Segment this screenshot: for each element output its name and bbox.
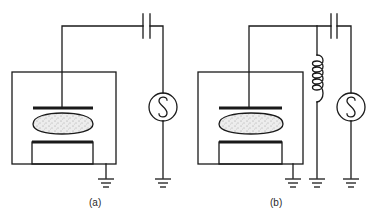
source-wire-top (150, 26, 163, 93)
circuit-figure (0, 0, 375, 219)
ground-icon (343, 179, 359, 187)
bottom-electrode (32, 142, 93, 164)
panel-b-caption: (b) (270, 197, 282, 208)
ground-icon (309, 179, 325, 187)
ground-icon (98, 179, 114, 187)
ground-icon (285, 179, 301, 187)
plasma-icon (219, 113, 283, 134)
rf-source-icon (337, 93, 365, 121)
inductor-icon (313, 55, 324, 102)
source-wire-top (337, 26, 351, 93)
capacitor-icon (331, 14, 337, 38)
capacitor-icon (143, 14, 150, 38)
bottom-electrode (219, 142, 282, 164)
feed-wire (62, 26, 143, 108)
panel-a (12, 14, 177, 187)
rf-source-icon (149, 93, 177, 121)
panel-b (198, 14, 365, 187)
panel-a-caption: (a) (89, 197, 101, 208)
plasma-icon (33, 113, 93, 134)
ground-icon (155, 179, 171, 187)
